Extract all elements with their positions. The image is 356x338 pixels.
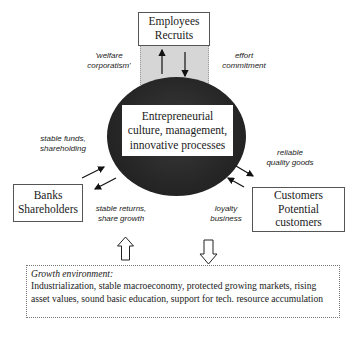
hollow-arrow-up-icon [118,237,134,260]
hollow-arrow-down-icon [200,240,217,264]
growth-environment-box: Growth environment: Industrialization, s… [26,265,340,318]
arrow-customers-to-core [228,178,244,187]
arrow-banks-to-core [82,167,104,178]
growth-title: Growth environment: [31,268,335,280]
arrow-core-to-banks [95,178,116,189]
growth-body: Industrialization, stable macroeconomy, … [31,280,335,305]
arrow-core-to-customers [236,166,253,176]
